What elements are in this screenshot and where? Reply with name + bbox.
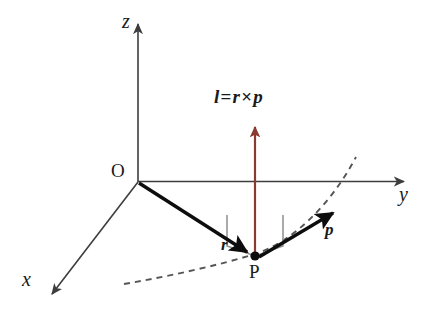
- particle-point-dot: [250, 251, 259, 260]
- equation-rhs-second: p: [253, 86, 263, 107]
- particle-label: P: [249, 261, 260, 283]
- origin-label: O: [111, 160, 125, 182]
- angular-momentum-equation: l=r×p: [214, 86, 263, 108]
- position-vector-r: [139, 183, 247, 252]
- momentum-vector-label: p: [325, 220, 334, 240]
- x-axis-line: [52, 182, 138, 294]
- axis-group: [52, 24, 404, 294]
- vector-group: [139, 127, 333, 257]
- position-vector-label: r: [221, 235, 228, 255]
- momentum-vector-p: [259, 213, 333, 257]
- equation-rhs-first: r: [233, 86, 241, 107]
- y-axis-label: y: [399, 183, 408, 206]
- diagram-canvas: [0, 0, 440, 322]
- z-axis-label: z: [122, 10, 130, 33]
- cross-product-icon: ×: [240, 86, 253, 107]
- x-axis-label: x: [22, 268, 31, 291]
- equation-equals: =: [219, 86, 232, 107]
- angular-momentum-figure: z y x O P r p l=r×p: [0, 0, 440, 322]
